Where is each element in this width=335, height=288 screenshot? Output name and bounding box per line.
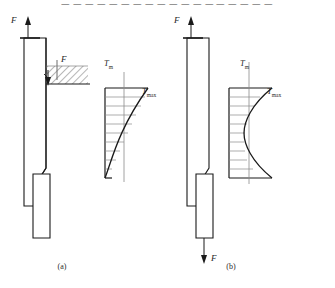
tau-max-label-b: Tmax: [267, 86, 281, 98]
force-label-a-top: F: [11, 15, 17, 25]
tau-max-sub-b: max: [272, 92, 281, 98]
tau-max-sub-a: max: [147, 92, 156, 98]
force-arrow-b-bottom: [201, 238, 207, 264]
stress-plot-b: [229, 62, 272, 184]
figure-caption-a: (a): [0, 262, 146, 271]
hatched-support-a: [46, 66, 90, 84]
force-label-a-bearing: F: [61, 54, 67, 64]
plate-b-lower: [196, 174, 213, 238]
force-arrow-a-top: [20, 16, 40, 38]
tau-mean-label-a: Tm: [104, 58, 113, 70]
plate-a-lower: [33, 174, 50, 238]
tau-mean-sub-b: m: [245, 64, 249, 70]
figure-caption-b: (b): [147, 262, 315, 271]
force-arrow-b-top: [183, 16, 203, 38]
tau-mean-sub-a: m: [109, 64, 113, 70]
tau-max-label-a: Tmax: [142, 86, 156, 98]
tau-mean-label-b: Tm: [240, 58, 249, 70]
figure-a: F F Tm Tmax (a): [0, 0, 168, 288]
figure-b: F F Tm Tmax (b): [167, 0, 335, 288]
force-label-b-top: F: [174, 15, 180, 25]
